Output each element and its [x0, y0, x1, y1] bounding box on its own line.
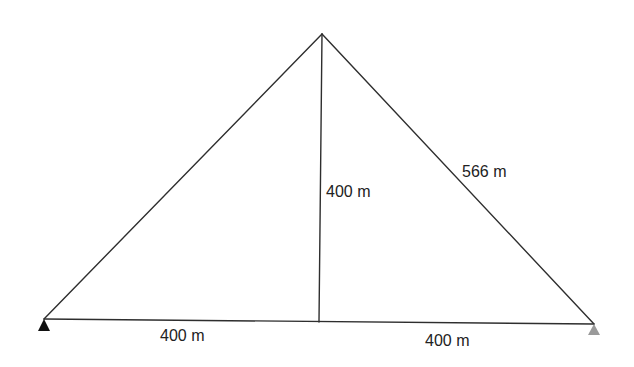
bottom-right-span-label: 400 m [425, 333, 469, 349]
left-diagonal-member [44, 34, 322, 319]
vertical-height-label: 400 m [326, 184, 370, 200]
truss-diagram [0, 0, 634, 367]
left-support-triangle-icon [38, 319, 50, 331]
right-support-triangle-icon [588, 324, 600, 335]
right-diagonal-length-label: 566 m [462, 164, 506, 180]
bottom-left-span-label: 400 m [160, 328, 204, 344]
right-diagonal-member [322, 34, 594, 324]
vertical-member [319, 34, 322, 322]
